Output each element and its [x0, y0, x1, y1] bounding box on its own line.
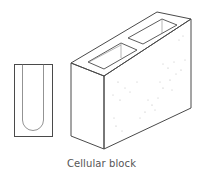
diagram-canvas [0, 0, 203, 179]
figure-caption: Cellular block [0, 158, 203, 169]
block-isometric-drawing [71, 12, 191, 149]
concrete-texture [113, 36, 186, 132]
cross-section-drawing [15, 65, 53, 137]
